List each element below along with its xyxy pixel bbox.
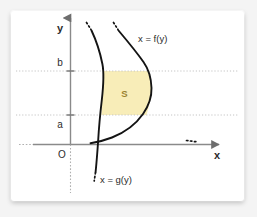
curve-g-of-y — [92, 31, 104, 173]
tick-label-a: a — [57, 119, 63, 130]
x-axis-label: x — [214, 149, 221, 161]
curve-g-top-dashes — [87, 23, 92, 30]
origin-label: O — [58, 149, 66, 160]
y-axis-label: y — [57, 22, 64, 34]
curve-g-bottom-dashes — [94, 173, 95, 182]
curve-label-f: x = f(y) — [138, 33, 167, 44]
curve-f-tail-dashes — [187, 141, 199, 143]
curve-f-top-dashes — [114, 23, 119, 30]
curve-label-g: x = g(y) — [100, 174, 132, 185]
region-label: S — [121, 88, 127, 99]
figure-stage: S y x O b a x = f(y) x = g(y) — [0, 0, 257, 217]
calculus-region-diagram: S y x O b a x = f(y) x = g(y) — [0, 0, 257, 217]
tick-label-b: b — [57, 57, 63, 68]
